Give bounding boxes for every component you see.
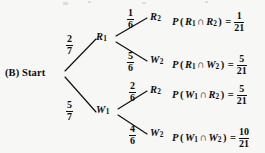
node-subscript: 2 (160, 57, 164, 66)
outcome-fraction: 1 21 (234, 11, 244, 34)
root-node-label: (B) Start (5, 68, 45, 79)
fraction-denominator: 6 (127, 20, 134, 30)
fraction-denominator: 21 (237, 96, 247, 106)
fraction-denominator: 21 (234, 23, 244, 33)
event-first: W (185, 89, 194, 100)
outcome-probability-r1-r2: P(R1∩R2) = 1 21 (172, 11, 244, 34)
branch-probability-w1-to-r2: 2 6 (129, 81, 136, 104)
event-second: W (208, 132, 217, 143)
branch-probability-r1-to-w2: 5 6 (127, 51, 134, 74)
node-base: R (150, 84, 157, 95)
node-subscript: 1 (103, 34, 107, 43)
fraction-numerator: 1 (234, 11, 244, 21)
fraction-denominator: 7 (66, 112, 73, 122)
equals-sign: = (223, 17, 234, 28)
intersection-icon: ∩ (196, 16, 207, 27)
node-r2-bottom: R2 (150, 85, 161, 96)
intersection-icon: ∩ (196, 59, 207, 70)
probability-tree-figure: (B) Start 2 7 5 7 R1 W1 1 6 5 6 2 6 4 6 … (0, 0, 265, 153)
outcome-probability-r1-w2: P(R1∩W2) = 5 21 (172, 54, 247, 77)
probability-expression: P(R1∩R2) (172, 17, 223, 28)
fraction-denominator: 7 (66, 46, 73, 56)
node-w1: W1 (96, 105, 109, 116)
probability-expression: P(R1∩W2) (172, 60, 226, 71)
fraction-numerator: 1 (127, 8, 134, 18)
fraction-denominator: 6 (129, 136, 136, 146)
intersection-icon: ∩ (198, 89, 209, 100)
node-base: W (150, 127, 159, 138)
fraction-numerator: 5 (127, 51, 134, 61)
equals-sign: = (226, 90, 237, 101)
event-first: R (185, 59, 192, 70)
node-base: R (96, 31, 103, 42)
fraction-denominator: 21 (239, 139, 249, 149)
node-base: W (150, 54, 159, 65)
fraction-denominator: 6 (127, 63, 134, 73)
node-w2-top: W2 (150, 55, 163, 66)
node-subscript: 2 (157, 14, 161, 23)
fraction-numerator: 5 (237, 54, 247, 64)
node-base: R (150, 11, 157, 22)
intersection-icon: ∩ (198, 132, 209, 143)
branch-probability-root-to-w1: 5 7 (66, 100, 73, 123)
branch-probability-w1-to-w2: 4 6 (129, 124, 136, 147)
event-first: R (185, 16, 192, 27)
node-w2-bottom: W2 (150, 128, 163, 139)
node-r2-top: R2 (150, 12, 161, 23)
equals-sign: = (228, 133, 239, 144)
node-base: W (96, 104, 105, 115)
outcome-probability-w1-r2: P(W1∩R2) = 5 21 (172, 84, 247, 107)
outcome-fraction: 5 21 (237, 84, 247, 107)
branch-probability-r1-to-r2: 1 6 (127, 8, 134, 31)
fraction-numerator: 2 (129, 81, 136, 91)
probability-expression: P(W1∩W2) (172, 133, 228, 144)
outcome-probability-w1-w2: P(W1∩W2) = 10 21 (172, 127, 249, 150)
fraction-denominator: 6 (129, 93, 136, 103)
probability-expression: P(W1∩R2) (172, 90, 226, 101)
fraction-numerator: 5 (66, 100, 73, 110)
equals-sign: = (226, 60, 237, 71)
branch-probability-root-to-r1: 2 7 (66, 34, 73, 57)
node-subscript: 2 (160, 130, 164, 139)
node-subscript: 1 (106, 107, 110, 116)
fraction-numerator: 2 (66, 34, 73, 44)
fraction-denominator: 21 (237, 66, 247, 76)
outcome-fraction: 10 21 (239, 127, 249, 150)
node-r1: R1 (96, 32, 107, 43)
node-subscript: 2 (157, 87, 161, 96)
fraction-numerator: 10 (239, 127, 249, 137)
fraction-numerator: 5 (237, 84, 247, 94)
fraction-numerator: 4 (129, 124, 136, 134)
event-first: W (185, 132, 194, 143)
outcome-fraction: 5 21 (237, 54, 247, 77)
